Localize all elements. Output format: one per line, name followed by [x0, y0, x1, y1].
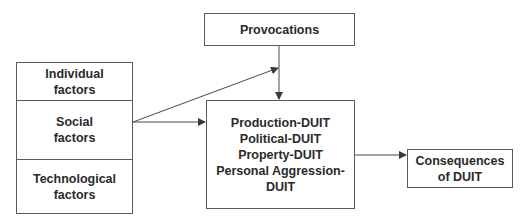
arrow-social-to-provocation-edge: [133, 68, 278, 122]
connector-arrows: [0, 0, 529, 218]
